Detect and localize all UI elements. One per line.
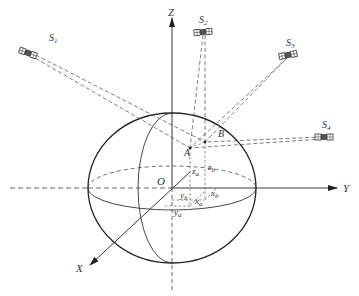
- svg-text:S1: S1: [49, 32, 58, 45]
- x-axis: [90, 172, 190, 265]
- satellite-s3: [279, 50, 298, 59]
- satellite-s2: [194, 28, 212, 36]
- signal-lines: [30, 35, 322, 148]
- svg-text:S4: S4: [322, 119, 331, 132]
- svg-text:za: za: [191, 166, 200, 178]
- svg-text:xa: xa: [194, 196, 203, 208]
- svg-text:S2: S2: [199, 14, 208, 27]
- x-axis-label: X: [75, 262, 84, 274]
- svg-text:ya: ya: [173, 207, 182, 219]
- origin-label: O: [157, 175, 165, 187]
- satellite-s4: [315, 134, 333, 140]
- satellite-s1: [19, 47, 38, 59]
- point-a-label: A: [183, 147, 191, 158]
- projection-lines: [165, 142, 216, 206]
- coordinate-labels: za zb yb xa xb ya: [173, 162, 219, 219]
- svg-text:yb: yb: [179, 190, 188, 202]
- y-axis-label: Y: [343, 182, 351, 194]
- point-b: [204, 141, 207, 144]
- satellite-positioning-diagram: Z Y X O A B S1 S2 S3 S4 za zb yb xa xb y…: [0, 0, 359, 296]
- svg-text:S3: S3: [286, 37, 295, 50]
- svg-text:xb: xb: [210, 188, 219, 200]
- point-b-label: B: [218, 128, 224, 139]
- z-axis-label: Z: [168, 6, 175, 18]
- svg-text:zb: zb: [207, 162, 216, 174]
- coordinate-axes: [10, 18, 337, 290]
